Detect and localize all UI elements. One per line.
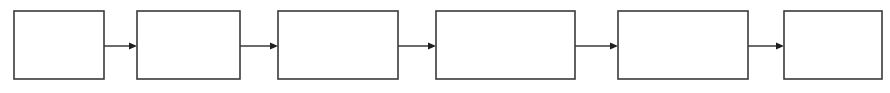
diagram-node[interactable] <box>436 11 575 79</box>
edge-arrowhead-icon <box>270 42 278 49</box>
node-rect[interactable] <box>14 11 104 79</box>
diagram-edge[interactable] <box>398 42 436 49</box>
edge-arrowhead-icon <box>610 42 618 49</box>
node-rect[interactable] <box>618 11 748 79</box>
edge-arrowhead-icon <box>428 42 436 49</box>
edge-arrowhead-icon <box>129 42 137 49</box>
block-diagram-canvas <box>0 0 890 93</box>
diagram-edge[interactable] <box>240 42 278 49</box>
diagram-edge[interactable] <box>575 42 618 49</box>
diagram-node[interactable] <box>278 11 398 79</box>
diagram-node[interactable] <box>14 11 104 79</box>
diagram-edge[interactable] <box>748 42 784 49</box>
node-rect[interactable] <box>436 11 575 79</box>
node-rect[interactable] <box>278 11 398 79</box>
diagram-svg <box>0 0 890 93</box>
edge-arrowhead-icon <box>776 42 784 49</box>
diagram-node[interactable] <box>137 11 240 79</box>
diagram-node[interactable] <box>784 11 882 79</box>
nodes-layer <box>14 11 882 79</box>
diagram-node[interactable] <box>618 11 748 79</box>
diagram-edge[interactable] <box>104 42 137 49</box>
node-rect[interactable] <box>784 11 882 79</box>
node-rect[interactable] <box>137 11 240 79</box>
